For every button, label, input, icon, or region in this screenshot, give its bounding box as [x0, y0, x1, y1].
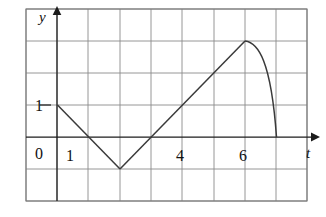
graph-figure: y t 0 1 1 4 6: [0, 0, 326, 217]
y-axis-label: y: [37, 9, 46, 25]
x-tick-label-6: 6: [239, 147, 247, 164]
x-tick-label-1: 1: [66, 147, 74, 164]
x-tick-label-4: 4: [176, 147, 184, 164]
figure-background: [0, 0, 326, 217]
coordinate-plane-svg: y t 0 1 1 4 6: [0, 0, 326, 217]
y-tick-label-1: 1: [35, 97, 43, 114]
origin-label: 0: [35, 145, 43, 162]
